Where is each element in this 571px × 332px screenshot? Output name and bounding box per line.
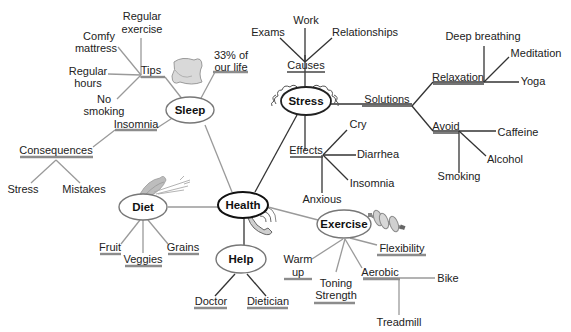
node-exercise-label: Exercise bbox=[320, 218, 367, 230]
edge-solutions-avoid bbox=[412, 106, 433, 131]
vegetables-icon bbox=[140, 176, 190, 196]
edge-help-dietician bbox=[247, 274, 266, 296]
exercise-flexibility: Flexibility bbox=[379, 242, 425, 254]
exercise-toning-line1: Toning bbox=[320, 277, 352, 289]
aerobic-treadmill: Treadmill bbox=[377, 316, 422, 328]
avoid-caffeine: Caffeine bbox=[498, 126, 539, 138]
edge-insomnia-consequences bbox=[93, 130, 115, 147]
node-health-label: Health bbox=[225, 199, 260, 211]
sleep-fact-line2: our life bbox=[214, 61, 247, 73]
exercise-warm-up-line2: up bbox=[292, 266, 304, 278]
edge-tips-no-smoking bbox=[117, 75, 141, 99]
help-dietician: Dietician bbox=[247, 295, 289, 307]
tip-no-smoking-line1: No bbox=[97, 93, 111, 105]
effect-insomnia: Insomnia bbox=[350, 177, 396, 189]
tip-regular-exercise-line2: exercise bbox=[122, 23, 163, 35]
effect-anxious: Anxious bbox=[302, 193, 342, 205]
relaxation-yoga: Yoga bbox=[521, 75, 547, 87]
solutions-label: Solutions bbox=[364, 93, 410, 105]
node-exercise[interactable]: Exercise bbox=[317, 210, 371, 238]
cause-exams: Exams bbox=[251, 26, 285, 38]
exercise-toning-line2: Strength bbox=[315, 289, 357, 301]
edge-effects-insomnia bbox=[323, 155, 348, 180]
edge-consequences-stress bbox=[31, 160, 56, 183]
edge-avoid-alcohol bbox=[459, 131, 486, 156]
pillow-icon bbox=[172, 58, 202, 84]
effect-cry: Cry bbox=[349, 118, 367, 130]
sleep-fact-line1: 33% of bbox=[214, 49, 249, 61]
sleep-tips-label: Tips bbox=[141, 64, 162, 76]
node-stress-label: Stress bbox=[288, 95, 323, 107]
node-help[interactable]: Help bbox=[216, 245, 266, 273]
help-doctor: Doctor bbox=[195, 295, 228, 307]
consequence-mistakes: Mistakes bbox=[62, 183, 106, 195]
edge-health-sleep bbox=[205, 125, 232, 192]
relaxation-deep-breathing: Deep breathing bbox=[445, 30, 520, 42]
exercise-warm-up-line1: Warm bbox=[284, 253, 313, 265]
node-help-label: Help bbox=[229, 253, 254, 265]
tip-no-smoking-line2: smoking bbox=[84, 105, 125, 117]
edge-sleep-fact bbox=[200, 72, 215, 100]
aerobic-bike: Bike bbox=[437, 272, 458, 284]
relaxation-label: Relaxation bbox=[432, 71, 484, 83]
avoid-smoking: Smoking bbox=[438, 170, 481, 182]
consequence-stress: Stress bbox=[7, 183, 39, 195]
causes-label: Causes bbox=[287, 59, 325, 71]
diet-veggies: Veggies bbox=[123, 253, 163, 265]
edge-relaxation-meditation bbox=[484, 57, 509, 82]
cause-work: Work bbox=[293, 14, 319, 26]
edge-exercise-aerobic bbox=[345, 239, 362, 268]
diet-grains: Grains bbox=[167, 241, 200, 253]
mind-map-svg: Health Sleep Stress Diet Help Exercise T… bbox=[0, 0, 571, 332]
dumbbell-icon bbox=[368, 209, 406, 233]
node-sleep[interactable]: Sleep bbox=[166, 97, 214, 123]
edge-help-doctor bbox=[215, 274, 235, 296]
tip-comfy-mattress-line1: Comfy bbox=[83, 30, 115, 42]
consequences-label: Consequences bbox=[19, 144, 93, 156]
aerobic-label: Aerobic bbox=[361, 266, 399, 278]
edge-consequences-mistakes bbox=[56, 160, 80, 183]
effects-label: Effects bbox=[289, 144, 323, 156]
edge-exercise-toning bbox=[336, 239, 345, 272]
edge-diet-grains bbox=[148, 220, 168, 244]
avoid-label: Avoid bbox=[432, 120, 459, 132]
edge-tips-comfy-mattress bbox=[118, 47, 141, 75]
tip-regular-exercise-line1: Regular bbox=[123, 10, 162, 22]
relaxation-meditation: Meditation bbox=[511, 47, 562, 59]
edge-diet-fruit bbox=[121, 220, 140, 244]
sleep-insomnia-label: Insomnia bbox=[114, 118, 160, 130]
edge-exercise-flexibility bbox=[350, 238, 377, 245]
cause-relationships: Relationships bbox=[332, 26, 399, 38]
health-mind-map: Health Sleep Stress Diet Help Exercise T… bbox=[0, 0, 571, 332]
node-stress[interactable]: Stress bbox=[281, 87, 331, 115]
edge-exercise-warm-up bbox=[312, 239, 343, 259]
diet-fruit: Fruit bbox=[99, 241, 121, 253]
tip-comfy-mattress-line2: mattress bbox=[75, 42, 118, 54]
edge-effects-cry bbox=[323, 130, 347, 155]
tip-regular-hours-line2: hours bbox=[74, 77, 102, 89]
edge-solutions-relaxation bbox=[412, 82, 433, 106]
edge-tips-regular-hours bbox=[108, 74, 141, 75]
node-health[interactable]: Health bbox=[218, 192, 268, 218]
effect-diarrhea: Diarrhea bbox=[357, 148, 400, 160]
tip-regular-hours-line1: Regular bbox=[69, 65, 108, 77]
avoid-alcohol: Alcohol bbox=[487, 153, 523, 165]
node-diet[interactable]: Diet bbox=[119, 194, 167, 220]
node-diet-label: Diet bbox=[132, 201, 154, 213]
node-sleep-label: Sleep bbox=[175, 104, 206, 116]
